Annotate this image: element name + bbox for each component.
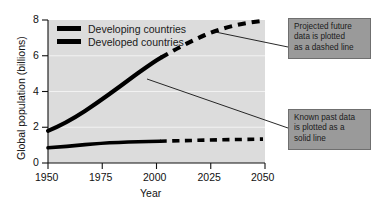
annotation-known-line3: solid line [294, 134, 366, 144]
x-tick-label-1975: 1975 [89, 171, 112, 183]
x-tick-label-1950: 1950 [35, 171, 58, 183]
annotation-known-line1: Known past data [294, 113, 366, 123]
y-tick-label-0: 0 [33, 156, 39, 168]
chart-figure: Developing countries Developed countries… [0, 0, 374, 213]
annotation-projected-line1: Projected future [294, 22, 366, 32]
series-developed-future [160, 139, 263, 141]
x-axis-ticks [48, 163, 265, 169]
x-tick-label-2000: 2000 [143, 171, 166, 183]
legend-swatch-developed [57, 39, 81, 44]
y-axis-title: Global population (billions) [15, 36, 27, 160]
x-tick-label-2025: 2025 [198, 171, 221, 183]
annotation-projected-line3: as a dashed line [294, 43, 366, 53]
annotation-projected-future: Projected future data is plotted as a da… [288, 18, 371, 59]
x-tick-label-2050: 2050 [251, 171, 274, 183]
annotation-projected-line2: data is plotted [294, 32, 366, 42]
legend-label-developing: Developing countries [88, 23, 186, 35]
y-tick-label-8: 8 [33, 13, 39, 25]
y-axis-ticks [42, 20, 48, 163]
y-tick-label-2: 2 [33, 120, 39, 132]
y-tick-label-6: 6 [33, 49, 39, 61]
chart-legend: Developing countries Developed countries [57, 22, 186, 48]
x-axis-title: Year [140, 187, 161, 199]
annotation-known-line2: is plotted as a [294, 123, 366, 133]
legend-label-developed: Developed countries [88, 36, 184, 48]
legend-swatch-developing [57, 26, 81, 31]
annotation-known-past: Known past data is plotted as a solid li… [288, 109, 371, 150]
legend-item-developed: Developed countries [57, 35, 186, 48]
legend-item-developing: Developing countries [57, 22, 186, 35]
y-tick-label-4: 4 [33, 85, 39, 97]
